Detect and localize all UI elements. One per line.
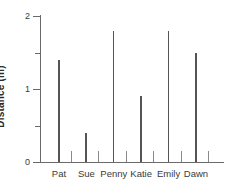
x-axis-label: Pat — [52, 168, 66, 179]
bar — [58, 60, 60, 162]
plot-area — [40, 16, 224, 162]
bar — [195, 53, 197, 163]
y-tick-label: 2 — [6, 12, 30, 21]
bar — [113, 31, 115, 162]
bar — [140, 96, 142, 162]
y-tick-major — [33, 16, 40, 17]
y-tick-label: 1 — [6, 85, 30, 94]
x-axis-line — [33, 162, 224, 163]
bar-chart: Distance (m) 012 PatSuePennyKatieEmilyDa… — [0, 0, 232, 193]
bar — [168, 31, 170, 162]
y-tick-major — [33, 89, 40, 90]
x-axis-label: Sue — [78, 168, 95, 179]
x-axis-label: Emily — [157, 168, 180, 179]
x-axis-label: Dawn — [184, 168, 208, 179]
x-axis-label: Penny — [100, 168, 127, 179]
bar — [85, 133, 87, 162]
y-tick-major — [33, 162, 40, 163]
y-tick-label: 0 — [6, 158, 30, 167]
x-axis-label: Katie — [130, 168, 152, 179]
